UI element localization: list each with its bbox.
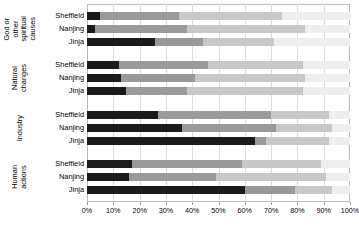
x-tick-label-50: 50% [211,206,225,215]
bar-segment-segment-4 [282,12,350,20]
city-label-natural-nanjing: Nanjing [0,74,84,82]
x-tick-100 [350,202,351,205]
bar-segment-segment-4 [329,111,350,119]
bar-segment-segment-2 [95,25,187,33]
plot-area [87,4,350,202]
x-tick-30 [166,202,167,205]
stacked-bar [87,111,350,119]
city-label-god-jinja: Jinja [0,38,84,46]
bar-segment-segment-2 [119,61,208,69]
stacked-bar [87,186,350,194]
bar-segment-segment-4 [303,87,350,95]
bar-row [87,61,350,69]
bar-segment-segment-3 [187,25,305,33]
bar-segment-segment-1 [87,74,121,82]
stacked-bar [87,61,350,69]
bar-row [87,186,350,194]
x-tick-0 [87,202,88,205]
city-label-natural-jinja: Jinja [0,87,84,95]
bar-row [87,12,350,20]
x-tick-50 [219,202,220,205]
bar-segment-segment-2 [132,160,242,168]
bar-segment-segment-3 [195,74,305,82]
bar-segment-segment-4 [332,124,350,132]
city-label-god-sheffield: Sheffield [0,12,84,20]
stacked-bar [87,38,350,46]
bar-segment-segment-2 [245,186,295,194]
stacked-bar [87,137,350,145]
stacked-bar [87,173,350,181]
bar-segment-segment-3 [242,160,321,168]
x-tick-60 [245,202,246,205]
city-label-industry-sheffield: Sheffield [0,111,84,119]
bar-segment-segment-2 [255,137,266,145]
bar-segment-segment-3 [179,12,282,20]
bar-segment-segment-4 [305,25,350,33]
bar-row [87,137,350,145]
bar-row [87,160,350,168]
bar-segment-segment-4 [274,38,350,46]
bar-segment-segment-1 [87,160,132,168]
bar-row [87,173,350,181]
bar-segment-segment-1 [87,186,245,194]
stacked-bar [87,87,350,95]
bar-segment-segment-1 [87,12,100,20]
bar-row [87,74,350,82]
city-label-industry-nanjing: Nanjing [0,124,84,132]
stacked-bar [87,12,350,20]
bar-segment-segment-1 [87,38,155,46]
city-label-natural-sheffield: Sheffield [0,61,84,69]
bar-segment-segment-3 [187,87,303,95]
bar-segment-segment-1 [87,124,182,132]
x-tick-label-10: 10% [106,206,120,215]
city-label-industry-jinja: Jinja [0,137,84,145]
bar-segment-segment-2 [129,173,216,181]
bar-row [87,25,350,33]
city-axis: SheffieldNanjingJinjaSheffieldNanjingJin… [0,4,84,202]
x-tick-70 [271,202,272,205]
x-tick-10 [113,202,114,205]
x-tick-80 [297,202,298,205]
bar-segment-segment-2 [155,38,202,46]
x-tick-label-90: 90% [316,206,330,215]
stacked-bar [87,25,350,33]
x-tick-20 [140,202,141,205]
bar-segment-segment-4 [305,74,350,82]
bar-segment-segment-3 [266,137,329,145]
x-tick-label-0: 0% [82,206,92,215]
x-axis: 0%10%20%30%40%50%60%70%80%90%100% [87,202,350,224]
bar-segment-segment-4 [321,160,350,168]
bar-row [87,124,350,132]
bar-segment-segment-1 [87,137,255,145]
city-label-human-jinja: Jinja [0,186,84,194]
bar-segment-segment-3 [276,124,331,132]
bar-segment-segment-3 [216,173,326,181]
stacked-bar [87,124,350,132]
x-tick-label-20: 20% [132,206,146,215]
bar-segment-segment-1 [87,25,95,33]
bar-segment-segment-4 [332,186,350,194]
x-tick-label-60: 60% [238,206,252,215]
bar-segment-segment-2 [100,12,179,20]
bar-segment-segment-1 [87,87,126,95]
x-tick-90 [324,202,325,205]
x-tick-label-70: 70% [264,206,278,215]
bar-segment-segment-3 [295,186,332,194]
bar-segment-segment-3 [208,61,303,69]
bar-row [87,111,350,119]
bar-segment-segment-2 [182,124,277,132]
x-tick-label-80: 80% [290,206,304,215]
bar-segment-segment-4 [329,137,350,145]
bar-row [87,38,350,46]
city-label-human-nanjing: Nanjing [0,173,84,181]
bar-segment-segment-2 [158,111,271,119]
x-tick-label-40: 40% [185,206,199,215]
x-tick-40 [192,202,193,205]
city-label-human-sheffield: Sheffield [0,160,84,168]
bar-segment-segment-2 [126,87,186,95]
x-tick-label-100: 100% [341,206,359,215]
stacked-bar [87,160,350,168]
stacked-bar-chart: God or other spiritual causesNatural cha… [0,0,359,229]
bar-segment-segment-2 [121,74,195,82]
bar-segment-segment-1 [87,111,158,119]
